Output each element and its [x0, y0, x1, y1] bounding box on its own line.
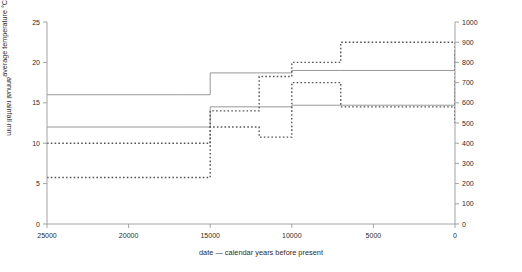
y-axis-right-tick-label: 0	[462, 221, 466, 228]
climate-step-chart: average temperature °C annual rainfall m…	[0, 0, 522, 272]
axes-svg: 0510152025010020030040050060070080090010…	[0, 0, 522, 272]
x-axis-tick-label: 15000	[200, 232, 220, 239]
y-axis-right-tick-label: 400	[462, 140, 474, 147]
y-axis-right-tick-label: 900	[462, 39, 474, 46]
y-axis-left-tick-label: 0	[36, 221, 40, 228]
y-axis-right-tick-label: 800	[462, 59, 474, 66]
y-axis-right-tick-label: 300	[462, 160, 474, 167]
y-axis-right-tick-label: 500	[462, 120, 474, 127]
y-axis-right-tick-label: 100	[462, 200, 474, 207]
y-axis-left-tick-label: 15	[32, 99, 40, 106]
x-axis-tick-label: 20000	[119, 232, 139, 239]
x-axis-tick-label: 5000	[366, 232, 382, 239]
y-axis-right-tick-label: 1000	[462, 19, 478, 26]
y-axis-left-tick-label: 20	[32, 59, 40, 66]
y-axis-right-tick-label: 700	[462, 79, 474, 86]
y-axis-left-tick-label: 10	[32, 140, 40, 147]
x-axis-tick-label: 0	[453, 232, 457, 239]
y-axis-left-tick-label: 5	[36, 180, 40, 187]
y-axis-left-tick-label: 25	[32, 19, 40, 26]
x-axis-tick-label: 10000	[282, 232, 302, 239]
y-axis-right-tick-label: 600	[462, 99, 474, 106]
x-axis-tick-label: 25000	[37, 232, 57, 239]
y-axis-right-tick-label: 200	[462, 180, 474, 187]
